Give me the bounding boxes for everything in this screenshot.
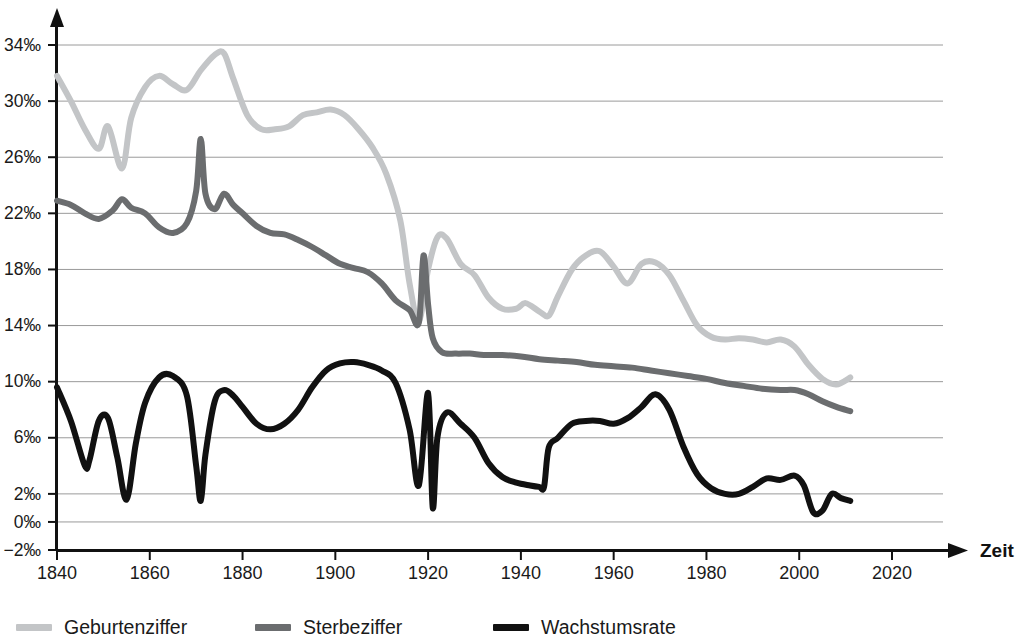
legend-label: Geburtenziffer [64,616,188,638]
y-axis-tick-label: 14‰ [4,315,41,335]
legend-swatch [255,624,291,631]
legend-label: Sterbeziffer [303,616,403,638]
y-axis-tick-label: 6‰ [14,427,42,447]
y-axis-tick-label: 34‰ [4,35,41,55]
x-axis-tick-label: 1880 [223,563,263,583]
legend-swatch [493,624,529,631]
x-axis-tick-label: 1860 [130,563,170,583]
x-axis-tick-label: 1980 [686,563,726,583]
x-axis-group: 1840186018801900192019401960198020002020… [37,540,1014,583]
y-axis-tick-label: 10‰ [4,371,41,391]
x-axis-tick-label: 1900 [315,563,355,583]
y-axis-tick-label: 18‰ [4,259,41,279]
population-rates-line-chart: 34‰30‰26‰22‰18‰14‰10‰6‰2‰0‰−2‰ 184018601… [0,0,1020,642]
chart-container: 34‰30‰26‰22‰18‰14‰10‰6‰2‰0‰−2‰ 184018601… [0,0,1020,642]
legend: GeburtenzifferSterbezifferWachstumsrate [16,616,676,638]
y-axis-tick-labels: 34‰30‰26‰22‰18‰14‰10‰6‰2‰0‰−2‰ [4,35,42,560]
legend-label: Wachstumsrate [541,616,676,638]
y-axis-tick-label: −2‰ [4,540,42,560]
y-axis-arrow-icon [50,8,64,27]
x-axis-arrow-icon [948,543,968,558]
x-axis-tick-label: 1940 [501,563,541,583]
y-axis-tick-label: 2‰ [14,484,42,504]
x-axis-tick-label: 2020 [872,563,912,583]
series-group [57,51,850,514]
y-axis-tick-label: 22‰ [4,203,41,223]
x-axis-tick-label: 1920 [408,563,448,583]
y-axis-tick-label: 0‰ [14,512,42,532]
y-axis-tick-label: 30‰ [4,91,41,111]
y-axis-group: 34‰30‰26‰22‰18‰14‰10‰6‰2‰0‰−2‰ [4,8,64,560]
x-axis-tick-label: 2000 [779,563,819,583]
x-axis-tick-label: 1960 [594,563,634,583]
y-axis-tick-label: 26‰ [4,147,41,167]
legend-swatch [16,624,52,631]
x-axis-title: Zeit [980,540,1014,561]
series-line-sterbeziffer [57,139,850,411]
x-axis-tick-label: 1840 [37,563,77,583]
x-axis-tick-labels: 1840186018801900192019401960198020002020 [37,563,912,583]
